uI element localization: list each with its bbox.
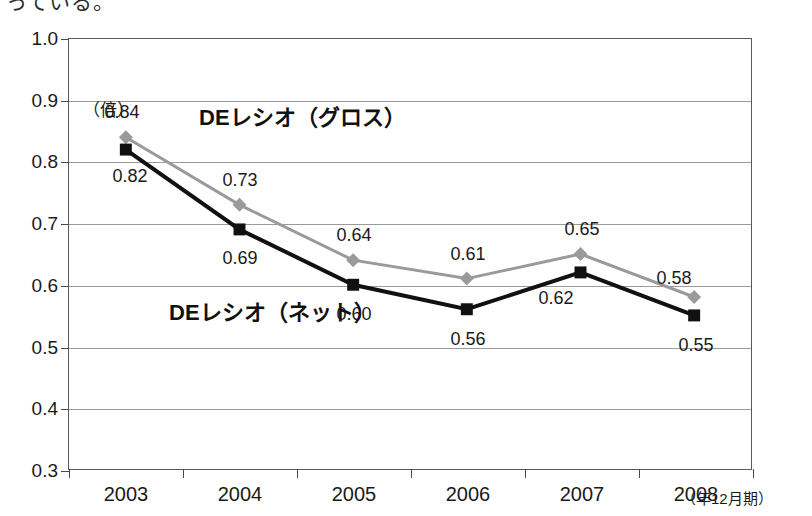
x-axis-tick <box>639 469 640 478</box>
y-axis-tick-label: 0.3 <box>32 460 58 482</box>
data-point-marker <box>120 144 132 156</box>
data-point-label: 0.62 <box>538 287 573 308</box>
y-axis-tick <box>61 101 69 102</box>
x-axis-tick <box>69 469 70 478</box>
data-point-label: 0.82 <box>112 166 147 187</box>
data-point-label: 0.69 <box>222 248 257 269</box>
x-axis-tick <box>183 469 184 478</box>
series-label-net: DEレシオ（ネット） <box>169 294 376 326</box>
y-axis-tick <box>61 348 69 349</box>
data-point-label: 0.73 <box>222 169 257 190</box>
y-axis-tick-label: 1.0 <box>32 28 58 50</box>
data-point-label: 0.55 <box>678 334 713 355</box>
data-point-label: 0.56 <box>450 328 485 349</box>
x-axis-tick <box>411 469 412 478</box>
x-axis-tick <box>525 469 526 478</box>
x-axis-tick-label: 2004 <box>218 483 263 506</box>
data-point-label: 0.64 <box>336 225 371 246</box>
data-point-label: 0.65 <box>564 219 599 240</box>
data-point-label: 0.58 <box>656 268 691 289</box>
de-ratio-line-chart: 1.00.90.80.70.60.50.40.3 200320042005200… <box>0 0 812 516</box>
x-axis-tick <box>753 469 754 478</box>
data-point-label: 0.84 <box>104 101 139 122</box>
data-point-marker <box>687 290 701 304</box>
y-axis-tick <box>61 409 69 410</box>
y-axis-tick <box>61 286 69 287</box>
series-label-gross: DEレシオ（グロス） <box>199 99 406 131</box>
y-axis-tick-label: 0.8 <box>32 151 58 173</box>
y-axis-tick-label: 0.7 <box>32 213 58 235</box>
x-axis-tick-label: 2003 <box>104 483 149 506</box>
data-point-marker <box>347 279 359 291</box>
data-point-marker <box>234 223 246 235</box>
data-point-marker <box>119 130 133 144</box>
data-point-marker <box>688 309 700 321</box>
data-point-marker <box>233 198 247 212</box>
data-point-marker <box>575 266 587 278</box>
series-line-gross <box>126 137 694 297</box>
y-axis-tick-label: 0.9 <box>32 90 58 112</box>
data-point-marker <box>460 272 474 286</box>
series-plot <box>69 39 751 469</box>
x-axis-tick <box>297 469 298 478</box>
x-axis-tick-label: 2006 <box>446 483 491 506</box>
y-axis-tick-label: 0.5 <box>32 337 58 359</box>
data-point-marker <box>346 253 360 267</box>
plot-area: 1.00.90.80.70.60.50.40.3 200320042005200… <box>68 38 752 470</box>
data-point-label: 0.61 <box>450 243 485 264</box>
y-axis-tick <box>61 471 69 472</box>
x-axis-tick-label: 2005 <box>332 483 377 506</box>
y-axis-tick <box>61 224 69 225</box>
x-axis-note: （年12月期） <box>681 487 773 508</box>
y-axis-tick <box>61 39 69 40</box>
y-axis-tick-label: 0.4 <box>32 398 58 420</box>
data-point-marker <box>574 247 588 261</box>
y-axis-tick-label: 0.6 <box>32 275 58 297</box>
series-line-net <box>126 150 694 316</box>
x-axis-tick-label: 2007 <box>560 483 605 506</box>
data-point-marker <box>461 303 473 315</box>
y-axis-tick <box>61 162 69 163</box>
